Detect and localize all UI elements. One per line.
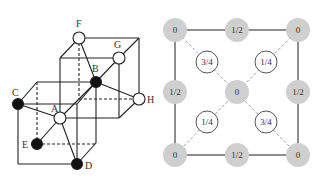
label-corner-bl: 0 bbox=[173, 150, 178, 160]
label-b: B bbox=[92, 63, 99, 74]
atom-h bbox=[133, 93, 145, 105]
label-c: C bbox=[12, 87, 19, 98]
label-corner-tr: 0 bbox=[296, 25, 301, 35]
atom-c bbox=[13, 99, 24, 110]
label-edge-bottom: 1/2 bbox=[231, 150, 243, 160]
label-g: G bbox=[114, 39, 121, 50]
atom-d bbox=[72, 159, 83, 170]
label-edge-top: 1/2 bbox=[231, 25, 243, 35]
label-corner-br: 0 bbox=[296, 150, 301, 160]
atom-f bbox=[73, 32, 85, 44]
figure-canvas: F G B H C A E D bbox=[0, 0, 324, 181]
label-e: E bbox=[22, 139, 28, 150]
label-d: D bbox=[85, 160, 92, 171]
atom-g bbox=[113, 52, 125, 64]
label-inner-tr: 1/4 bbox=[260, 57, 272, 67]
atom-b bbox=[91, 77, 102, 88]
label-edge-right: 1/2 bbox=[292, 87, 304, 97]
right-projection-diagram: 0 1/2 0 1/2 0 1/2 0 1/2 0 3/4 1/4 1/4 3/… bbox=[163, 18, 310, 167]
label-f: F bbox=[76, 18, 82, 29]
atom-e bbox=[32, 139, 43, 150]
label-a: A bbox=[51, 103, 59, 114]
label-center: 0 bbox=[235, 87, 240, 97]
label-inner-br: 3/4 bbox=[260, 117, 272, 127]
label-inner-bl: 1/4 bbox=[201, 117, 213, 127]
label-edge-left: 1/2 bbox=[169, 87, 181, 97]
label-corner-tl: 0 bbox=[173, 25, 178, 35]
label-inner-tl: 3/4 bbox=[201, 57, 213, 67]
label-h: H bbox=[147, 94, 154, 105]
